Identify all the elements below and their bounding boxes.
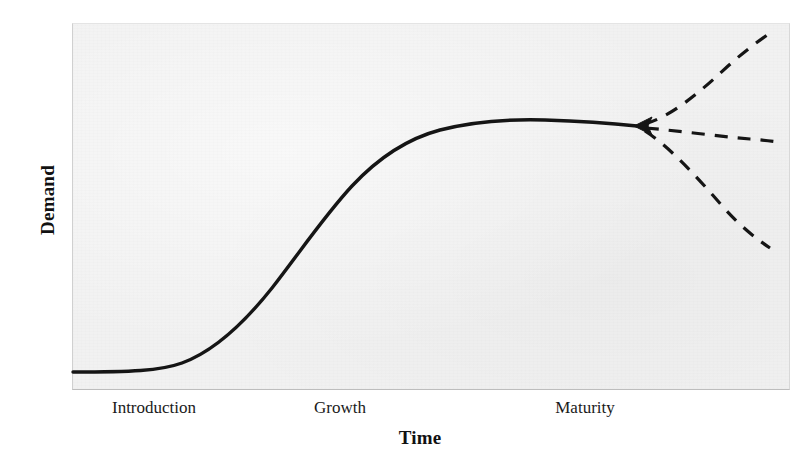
plot-area	[72, 23, 790, 390]
stage-label-growth: Growth	[314, 398, 366, 418]
y-axis-title: Demand	[37, 165, 59, 235]
x-axis-title: Time	[399, 427, 442, 449]
stage-label-maturity: Maturity	[555, 398, 615, 418]
stage-label-introduction: Introduction	[112, 398, 196, 418]
product-life-cycle-figure: Demand Time Introduction Growth Maturity	[0, 0, 811, 464]
